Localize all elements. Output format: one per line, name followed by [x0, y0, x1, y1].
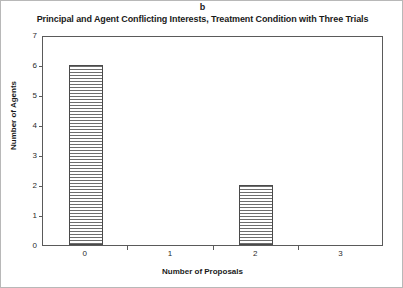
plot-frame [42, 36, 383, 246]
bar [69, 65, 103, 245]
x-tick-label: 2 [213, 250, 298, 258]
x-axis-tick-labels: 0123 [42, 250, 383, 262]
chart-title: Principal and Agent Conflicting Interest… [1, 13, 403, 25]
x-tick-label: 0 [42, 250, 127, 258]
plot-area [43, 37, 382, 245]
chart-figure: b Principal and Agent Conflicting Intere… [0, 0, 403, 288]
y-tick-label: 5 [11, 92, 37, 100]
y-tick-label: 3 [11, 152, 37, 160]
y-tick-label: 2 [11, 182, 37, 190]
y-tick-label: 7 [11, 32, 37, 40]
y-tick-label: 4 [11, 122, 37, 130]
x-tick-label: 1 [127, 250, 212, 258]
panel-label: b [1, 2, 403, 13]
y-tick-label: 6 [11, 62, 37, 70]
y-tick-label: 1 [11, 212, 37, 220]
y-tick-label: 0 [11, 242, 37, 250]
x-tick-label: 3 [298, 250, 383, 258]
bar [239, 185, 273, 245]
x-axis-title: Number of Proposals [1, 267, 403, 276]
